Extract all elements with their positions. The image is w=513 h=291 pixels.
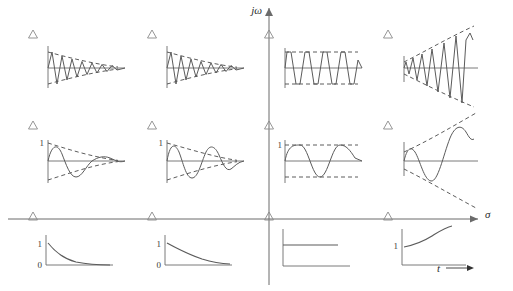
pole-marker-icon[interactable] bbox=[384, 121, 393, 129]
cell-y-tick-one: 1 bbox=[278, 140, 283, 150]
upper-envelope bbox=[167, 143, 237, 160]
response-curve bbox=[167, 146, 244, 178]
main-axes bbox=[8, 8, 478, 285]
upper-envelope bbox=[404, 26, 474, 62]
pole-marker-icon[interactable] bbox=[384, 30, 393, 38]
figure-canvas: jω σ t bbox=[0, 0, 513, 291]
cell-y-tick-one: 1 bbox=[159, 138, 164, 148]
cell-y-tick-zero: 0 bbox=[157, 260, 162, 270]
cell-r2c2: 1 bbox=[148, 121, 245, 183]
cell-r1c4 bbox=[384, 26, 479, 107]
s-plane-figure: jω σ t bbox=[0, 0, 513, 291]
pole-marker-icon[interactable] bbox=[29, 121, 38, 129]
cell-y-tick-zero: 0 bbox=[38, 260, 43, 270]
cell-r2c1: 1 bbox=[29, 121, 126, 183]
time-axis-label: t bbox=[437, 262, 441, 274]
pole-marker-icon[interactable] bbox=[148, 121, 157, 129]
cell-r3c4: 1 bbox=[384, 212, 467, 265]
cell-r1c1 bbox=[29, 30, 126, 88]
upper-envelope bbox=[404, 113, 476, 152]
time-axis-label-group: t bbox=[437, 262, 474, 274]
lower-envelope bbox=[167, 162, 237, 180]
jomega-axis-label: jω bbox=[249, 4, 262, 16]
cell-r3c3 bbox=[265, 212, 351, 266]
response-curve bbox=[48, 243, 110, 265]
cell-r1c3 bbox=[265, 30, 363, 88]
response-curve bbox=[404, 127, 474, 181]
cell-y-tick-one: 1 bbox=[394, 241, 399, 251]
jomega-axis-arrow bbox=[265, 8, 273, 16]
upper-envelope bbox=[48, 143, 118, 160]
lower-envelope bbox=[48, 162, 118, 180]
cell-r3c2: 1 0 bbox=[148, 212, 233, 270]
lower-envelope bbox=[404, 169, 476, 208]
response-curve bbox=[48, 147, 125, 177]
cell-y-tick-one: 1 bbox=[40, 138, 45, 148]
response-curve bbox=[404, 226, 452, 247]
cell-r2c4 bbox=[384, 113, 479, 208]
cell-r1c2 bbox=[148, 30, 245, 88]
cell-y-tick-one: 1 bbox=[157, 239, 162, 249]
sigma-axis-label: σ bbox=[485, 208, 491, 220]
pole-marker-icon[interactable] bbox=[29, 30, 38, 38]
sigma-axis-arrow bbox=[470, 216, 478, 223]
time-arrow-head bbox=[467, 265, 474, 271]
response-curve bbox=[167, 243, 230, 264]
pole-marker-icon[interactable] bbox=[148, 30, 157, 38]
cell-r2c3: 1 bbox=[265, 121, 363, 183]
cell-y-tick-one: 1 bbox=[38, 239, 43, 249]
cell-r3c1: 1 0 bbox=[29, 212, 114, 270]
